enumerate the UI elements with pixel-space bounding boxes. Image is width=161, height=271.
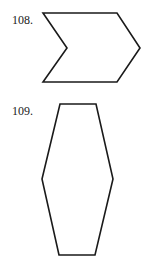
figures-canvas <box>0 0 161 271</box>
chevron-shape <box>43 13 140 82</box>
hexagon-shape <box>42 104 113 255</box>
